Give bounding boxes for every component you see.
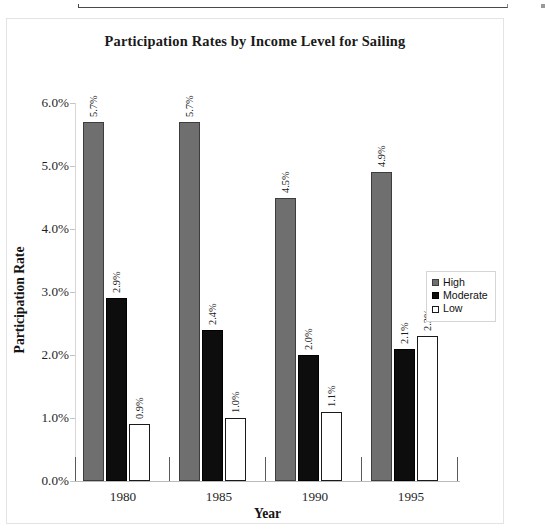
legend-label: High: [443, 276, 465, 289]
y-tick-label: 1.0%: [17, 410, 69, 426]
x-axis-title: Year: [75, 506, 460, 522]
bar-moderate-1995[interactable]: 2.1%: [394, 349, 415, 481]
bar-low-1990[interactable]: 1.1%: [321, 412, 342, 481]
chart-frame: Participation Rates by Income Level for …: [6, 18, 504, 524]
legend-item-high[interactable]: High: [432, 276, 488, 289]
bar-group: 5.7%2.9%0.9%: [75, 103, 171, 481]
bar-value-label: 0.9%: [133, 398, 144, 420]
scanned-page-box-edge: [78, 4, 508, 8]
bar-value-label: 2.9%: [110, 272, 121, 294]
bar-value-label: 2.4%: [206, 303, 217, 325]
bar-value-label: 5.7%: [87, 95, 98, 117]
group-separator: [457, 457, 458, 481]
x-tick-label-1980: 1980: [88, 489, 158, 505]
bar-low-1995[interactable]: 2.3%: [417, 336, 438, 481]
y-tick-label: 0.0%: [17, 473, 69, 489]
x-tick-label-1995: 1995: [376, 489, 446, 505]
y-tick-label: 4.0%: [17, 221, 69, 237]
y-tick-label: 5.0%: [17, 158, 69, 174]
legend-label: Low: [443, 302, 462, 315]
bar-high-1980[interactable]: 5.7%: [83, 122, 104, 481]
bar-value-label: 2.1%: [398, 322, 409, 344]
y-tick-label: 2.0%: [17, 347, 69, 363]
bar-value-label: 1.1%: [325, 385, 336, 407]
bar-value-label: 4.9%: [375, 146, 386, 168]
bar-group: 5.7%2.4%1.0%: [171, 103, 267, 481]
bar-high-1985[interactable]: 5.7%: [179, 122, 200, 481]
bar-moderate-1980[interactable]: 2.9%: [106, 298, 127, 481]
legend-item-moderate[interactable]: Moderate: [432, 289, 488, 302]
x-tick-label-1985: 1985: [184, 489, 254, 505]
chart-title: Participation Rates by Income Level for …: [7, 33, 503, 50]
scan-artifact-mark: [541, 4, 545, 8]
x-axis-line: [75, 481, 460, 482]
plot-area: 5.7%2.9%0.9%5.7%2.4%1.0%4.5%2.0%1.1%4.9%…: [75, 103, 459, 481]
bar-value-label: 1.0%: [229, 391, 240, 413]
group-separator: [361, 457, 362, 481]
y-tick-label: 6.0%: [17, 95, 69, 111]
x-tick-label-1990: 1990: [280, 489, 350, 505]
group-separator: [169, 457, 170, 481]
bar-high-1995[interactable]: 4.9%: [371, 172, 392, 481]
bar-group: 4.5%2.0%1.1%: [267, 103, 363, 481]
bar-moderate-1985[interactable]: 2.4%: [202, 330, 223, 481]
y-axis-ticks: 0.0%1.0%2.0%3.0%4.0%5.0%6.0%: [7, 19, 69, 532]
y-tick-label: 3.0%: [17, 284, 69, 300]
group-separator: [75, 457, 76, 481]
legend-swatch-icon: [432, 292, 439, 299]
bar-low-1985[interactable]: 1.0%: [225, 418, 246, 481]
legend-item-low[interactable]: Low: [432, 302, 488, 315]
group-separator: [265, 457, 266, 481]
bar-moderate-1990[interactable]: 2.0%: [298, 355, 319, 481]
bar-high-1990[interactable]: 4.5%: [275, 198, 296, 482]
legend-swatch-icon: [432, 279, 439, 286]
chart-legend: HighModerateLow: [426, 271, 496, 322]
legend-label: Moderate: [443, 289, 488, 302]
bar-value-label: 2.0%: [302, 328, 313, 350]
bar-value-label: 5.7%: [183, 95, 194, 117]
bar-value-label: 4.5%: [279, 171, 290, 193]
bar-low-1980[interactable]: 0.9%: [129, 424, 150, 481]
legend-swatch-icon: [432, 306, 439, 313]
